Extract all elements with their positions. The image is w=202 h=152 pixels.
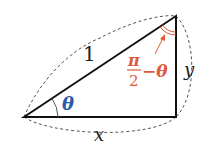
complement-denominator: 2 [129, 72, 139, 90]
arrow-head-icon [160, 34, 165, 41]
right-triangle-diagram: 1 θ π 2 −θ y x [0, 0, 202, 152]
x-label: x [94, 124, 104, 145]
complement-rest: −θ [142, 61, 168, 81]
complement-arc-outer [160, 27, 176, 35]
arrow-line [155, 38, 163, 54]
complement-numerator: π [127, 51, 140, 70]
y-label: y [183, 59, 195, 80]
theta-arc [52, 99, 58, 118]
theta-label: θ [62, 93, 74, 114]
hypotenuse-label: 1 [83, 42, 96, 66]
